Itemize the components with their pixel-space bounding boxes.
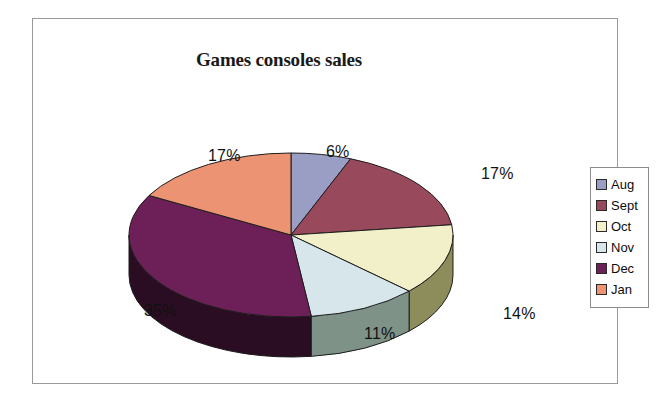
legend-swatch-icon	[596, 200, 607, 211]
chart-plot-frame: Games consoles sales 6% 17% 14% 11% 35% …	[32, 18, 618, 384]
legend-item-label: Sept	[611, 199, 638, 212]
legend-item-label: Nov	[611, 241, 634, 254]
slice-label-nov: 11%	[364, 325, 395, 343]
legend-swatch-icon	[596, 284, 607, 295]
legend-item-aug[interactable]: Aug	[596, 174, 643, 195]
legend-item-label: Dec	[611, 262, 634, 275]
pie-chart: 6% 17% 14% 11% 35% 17%	[111, 127, 471, 357]
legend-swatch-icon	[596, 263, 607, 274]
legend-item-label: Oct	[611, 220, 631, 233]
slice-label-jan: 17%	[208, 147, 241, 165]
slice-label-aug: 6%	[326, 143, 350, 161]
legend-item-sept[interactable]: Sept	[596, 195, 643, 216]
slice-label-dec: 35%	[144, 302, 177, 320]
legend-item-oct[interactable]: Oct	[596, 216, 643, 237]
legend-item-dec[interactable]: Dec	[596, 258, 643, 279]
legend-swatch-icon	[596, 221, 607, 232]
legend-item-jan[interactable]: Jan	[596, 279, 643, 300]
legend-item-label: Aug	[611, 178, 634, 191]
pie-slice-tops	[129, 153, 453, 317]
legend-item-label: Jan	[611, 283, 632, 296]
slice-label-oct: 14%	[503, 305, 536, 323]
slice-label-sept: 17%	[481, 165, 514, 183]
chart-title: Games consoles sales	[33, 49, 617, 71]
legend-swatch-icon	[596, 179, 607, 190]
legend-item-nov[interactable]: Nov	[596, 237, 643, 258]
pie-chart-svg	[111, 127, 471, 357]
chart-legend: AugSeptOctNovDecJan	[590, 167, 649, 308]
legend-swatch-icon	[596, 242, 607, 253]
